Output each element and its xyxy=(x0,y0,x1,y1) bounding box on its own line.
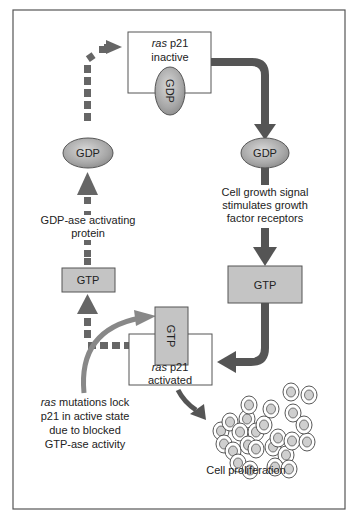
activated-title: ras p21 xyxy=(152,361,189,373)
svg-text:p21 in active state: p21 in active state xyxy=(41,410,130,422)
svg-text:protein: protein xyxy=(71,227,105,239)
svg-text:Cell growth signal: Cell growth signal xyxy=(222,186,309,198)
proliferation-label: Cell proliferation xyxy=(206,464,285,476)
svg-text:due to blocked: due to blocked xyxy=(49,424,121,436)
svg-text:GTP: GTP xyxy=(254,279,277,291)
svg-text:GDP: GDP xyxy=(76,147,100,159)
arrow-gdp-stub xyxy=(261,167,269,185)
inactive-label: inactive xyxy=(151,51,188,63)
svg-text:GTP-ase activity: GTP-ase activity xyxy=(45,438,126,450)
signal-text: Cell growth signal stimulates growth fac… xyxy=(222,186,309,224)
right-gdp-node: GDP xyxy=(241,138,289,168)
inactive-title: ras p21 xyxy=(152,37,189,49)
svg-text:GDP: GDP xyxy=(253,147,277,159)
gtp-bound-label: GTP xyxy=(165,325,177,348)
ras-cycle-diagram: ras p21 inactive GDP GDP Cell growth sig… xyxy=(0,0,356,520)
activated-label: activated xyxy=(148,374,192,386)
svg-text:factor receptors: factor receptors xyxy=(227,212,304,224)
svg-text:GTP: GTP xyxy=(77,274,100,286)
left-gdp-node: GDP xyxy=(63,138,113,168)
gdp-bound-label: GDP xyxy=(164,79,176,103)
svg-text:ras mutations lock: ras mutations lock xyxy=(41,396,130,408)
svg-text:GDP-ase activating: GDP-ase activating xyxy=(41,214,136,226)
svg-text:stimulates growth: stimulates growth xyxy=(222,199,308,211)
right-gtp-box: GTP xyxy=(228,266,302,303)
left-gtp-box: GTP xyxy=(62,268,115,292)
